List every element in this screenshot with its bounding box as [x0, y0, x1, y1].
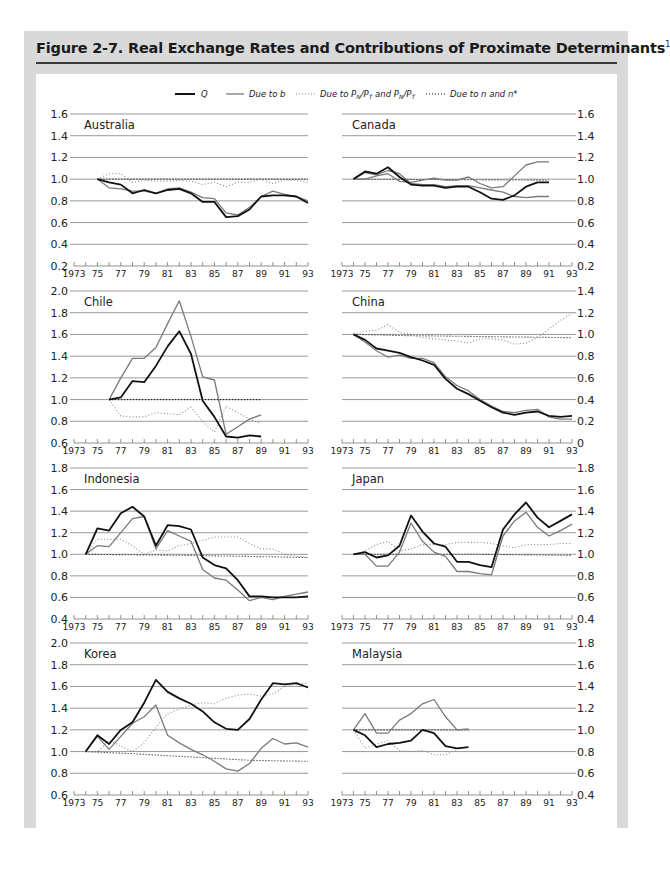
y-tick-label: 0.2 [577, 415, 595, 428]
x-tick-label: 89 [255, 622, 267, 632]
series-line [354, 162, 550, 188]
y-tick-label: 1.6 [51, 484, 69, 497]
panel-title: China [352, 295, 385, 309]
y-tick-label: 0.8 [577, 570, 595, 583]
y-tick-label: 1.2 [51, 724, 69, 737]
y-tick-label: 1.4 [51, 702, 69, 715]
x-tick-label: 93 [302, 269, 313, 279]
x-tick-label: 1973 [63, 446, 86, 456]
x-tick-label: 83 [451, 622, 462, 632]
y-tick-label: 0.4 [51, 238, 69, 251]
x-tick-label: 77 [115, 269, 126, 279]
y-tick-label: 2.0 [51, 637, 69, 650]
legend-label-n: Due to n and n* [450, 89, 518, 99]
y-tick-label: 0.8 [51, 195, 69, 208]
x-tick-label: 93 [302, 446, 313, 456]
x-tick-label: 79 [138, 269, 150, 279]
legend-item-b: Due to b [226, 89, 286, 99]
y-tick-label: 1.4 [577, 285, 595, 298]
y-tick-label: 1.8 [51, 307, 69, 320]
legend-label-q: Q [201, 89, 208, 99]
panel-japan: 1.81.61.41.21.00.80.60.41973757779818385… [331, 462, 595, 632]
x-tick-label: 93 [566, 798, 577, 808]
y-tick-label: 0.8 [577, 350, 595, 363]
x-tick-label: 79 [405, 446, 417, 456]
x-tick-label: 91 [279, 269, 290, 279]
x-tick-label: 87 [232, 622, 243, 632]
panel-china: 1.41.21.00.80.60.40.20197375777981838587… [331, 285, 595, 456]
x-tick-label: 87 [497, 446, 508, 456]
x-tick-label: 1973 [63, 622, 86, 632]
x-tick-label: 93 [302, 622, 313, 632]
legend-item-q: Q [175, 89, 208, 99]
x-tick-label: 77 [382, 269, 393, 279]
y-tick-label: 0.8 [577, 746, 595, 759]
x-tick-label: 83 [185, 269, 196, 279]
series-line [86, 683, 308, 751]
series-line [86, 517, 308, 601]
y-tick-label: 2.0 [51, 285, 69, 298]
x-tick-label: 75 [359, 446, 370, 456]
x-tick-label: 83 [451, 446, 462, 456]
x-tick-label: 93 [566, 622, 577, 632]
x-tick-label: 85 [209, 622, 220, 632]
x-tick-label: 75 [359, 269, 370, 279]
x-tick-label: 85 [474, 622, 485, 632]
panel-title: Canada [352, 118, 396, 132]
x-tick-label: 83 [451, 269, 462, 279]
x-tick-label: 81 [162, 269, 173, 279]
panel-chile: 2.01.81.61.41.21.00.80.61973757779818385… [51, 285, 314, 456]
x-tick-label: 87 [497, 622, 508, 632]
legend: Q Due to b Due to PN/PT and PN/PT Due to… [175, 89, 518, 100]
y-tick-label: 1.0 [577, 173, 595, 186]
x-tick-label: 77 [115, 622, 126, 632]
panels: 1.61.41.21.00.80.60.40.21973757779818385… [51, 108, 595, 808]
x-tick-label: 79 [138, 798, 150, 808]
y-tick-label: 0.8 [51, 570, 69, 583]
y-tick-label: 1.2 [577, 307, 595, 320]
x-tick-label: 75 [92, 446, 103, 456]
y-tick-label: 1.6 [51, 680, 69, 693]
y-tick-label: 1.8 [51, 659, 69, 672]
series-line [86, 752, 308, 762]
y-tick-label: 1.0 [577, 724, 595, 737]
x-tick-label: 89 [255, 269, 267, 279]
y-tick-label: 0.6 [577, 372, 595, 385]
y-tick-label: 1.0 [577, 328, 595, 341]
y-tick-label: 1.2 [577, 527, 595, 540]
y-tick-label: 1.2 [577, 702, 595, 715]
y-tick-label: 0.6 [51, 591, 69, 604]
series-line [109, 301, 261, 435]
series-line [97, 179, 308, 215]
x-tick-label: 77 [382, 798, 393, 808]
y-tick-label: 1.0 [51, 394, 69, 407]
y-tick-label: 1.6 [51, 108, 69, 121]
x-tick-label: 91 [543, 446, 554, 456]
x-tick-label: 1973 [63, 798, 86, 808]
x-tick-label: 81 [162, 798, 173, 808]
y-tick-label: 0.2 [577, 260, 595, 273]
x-tick-label: 87 [232, 446, 243, 456]
x-tick-label: 79 [405, 622, 417, 632]
series-line [86, 680, 308, 752]
y-tick-label: 1.0 [51, 746, 69, 759]
series-line [354, 334, 573, 417]
series-line [97, 174, 308, 187]
x-tick-label: 91 [279, 446, 290, 456]
panel-indonesia: 1.81.61.41.21.00.80.60.41973757779818385… [51, 462, 314, 632]
x-tick-label: 87 [497, 798, 508, 808]
series-line [354, 700, 469, 734]
panel-title: Japan [351, 472, 384, 486]
x-tick-label: 77 [382, 622, 393, 632]
y-tick-label: 1.4 [51, 130, 69, 143]
y-tick-label: 0.6 [577, 767, 595, 780]
y-tick-label: 0 [577, 437, 584, 450]
panel-canada: 1.61.41.21.00.80.60.40.21973757779818385… [331, 108, 595, 279]
series-line [354, 503, 573, 568]
legend-label-b: Due to b [249, 89, 286, 99]
x-tick-label: 75 [359, 798, 370, 808]
x-tick-label: 89 [520, 622, 532, 632]
x-tick-label: 85 [209, 446, 220, 456]
x-tick-label: 81 [428, 269, 439, 279]
y-tick-label: 0.8 [51, 767, 69, 780]
